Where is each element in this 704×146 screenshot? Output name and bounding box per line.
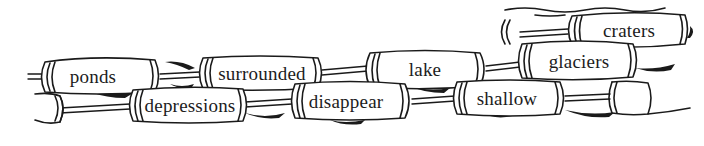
word-logs-illustration: ponds surrounded lake glaciers craters d… — [0, 0, 704, 146]
word-surrounded: surrounded — [218, 64, 305, 83]
word-ponds: ponds — [70, 67, 116, 86]
word-disappear: disappear — [309, 92, 384, 111]
log-partial-left — [35, 93, 63, 123]
log-empty-right — [609, 81, 690, 115]
word-glaciers: glaciers — [549, 52, 610, 71]
word-depressions: depressions — [145, 96, 236, 115]
word-craters: craters — [603, 21, 655, 40]
word-lake: lake — [409, 60, 441, 79]
word-shallow: shallow — [477, 89, 538, 108]
